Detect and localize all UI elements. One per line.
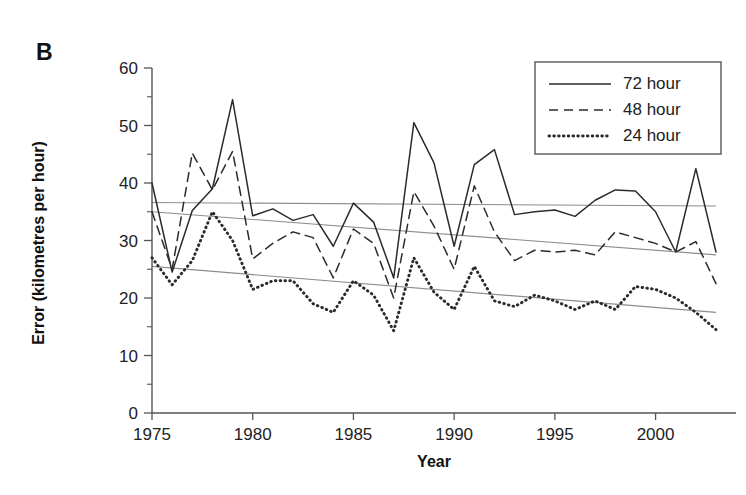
y-tick-label: 40 <box>119 174 138 193</box>
y-tick-label: 10 <box>119 347 138 366</box>
x-tick-label: 1990 <box>435 425 473 444</box>
figure-panel-b: B 0102030405060197519801985199019952000 … <box>0 0 746 495</box>
y-tick-label: 20 <box>119 289 138 308</box>
y-tick-label: 0 <box>129 404 138 423</box>
x-tick-label: 1975 <box>133 425 171 444</box>
panel-letter: B <box>36 39 53 65</box>
x-tick-label: 1980 <box>234 425 272 444</box>
x-tick-label: 2000 <box>637 425 675 444</box>
series-24-hour <box>152 212 716 331</box>
trend-line-0 <box>152 203 716 206</box>
legend-label-solid: 72 hour <box>623 74 681 93</box>
y-tick-label: 30 <box>119 232 138 251</box>
chart-canvas: B 0102030405060197519801985199019952000 … <box>0 0 746 495</box>
trend-line-2 <box>152 266 716 312</box>
series-48-hour <box>152 151 716 298</box>
y-axis-title: Error (kilometres per hour) <box>30 141 47 345</box>
y-tick-label: 60 <box>119 59 138 78</box>
legend-label-dashed: 48 hour <box>623 100 681 119</box>
y-tick-label: 50 <box>119 117 138 136</box>
x-axis-title: Year <box>417 453 451 470</box>
x-tick-label: 1985 <box>335 425 373 444</box>
trend-lines-group <box>152 203 716 313</box>
legend[interactable]: 72 hour48 hour24 hour <box>535 62 721 154</box>
legend-label-dotted: 24 hour <box>623 126 681 145</box>
x-tick-label: 1995 <box>536 425 574 444</box>
